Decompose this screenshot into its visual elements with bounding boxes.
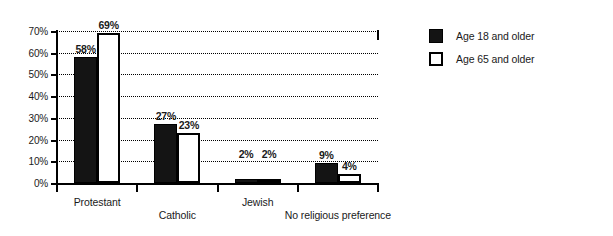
bar bbox=[74, 57, 97, 183]
bar-value-label: 69% bbox=[98, 19, 118, 31]
y-axis-tick bbox=[51, 96, 57, 98]
bar-value-label: 4% bbox=[342, 160, 357, 172]
legend-label: Age 65 and older bbox=[456, 53, 534, 65]
bar bbox=[177, 133, 200, 183]
legend-swatch-filled-icon bbox=[429, 29, 443, 43]
bar bbox=[97, 33, 120, 183]
y-axis-tick-label: 0% bbox=[34, 178, 48, 189]
y-axis-tick-label: 20% bbox=[29, 134, 48, 145]
bar-value-label: 27% bbox=[156, 110, 176, 122]
category-label: Protestant bbox=[74, 196, 121, 208]
y-axis-tick-label: 10% bbox=[29, 156, 48, 167]
legend-item-age-18-and-older: Age 18 and older bbox=[429, 24, 534, 47]
x-axis-tick bbox=[56, 183, 58, 192]
y-axis-tick-label: 70% bbox=[29, 26, 48, 37]
bar bbox=[154, 124, 177, 183]
y-axis-tick-label: 50% bbox=[29, 69, 48, 80]
y-axis-tick-label: 40% bbox=[29, 91, 48, 102]
x-axis-tick bbox=[136, 183, 138, 192]
bar-value-label: 2% bbox=[239, 148, 254, 160]
category-label: No religious preference bbox=[285, 209, 391, 221]
bar-value-label: 58% bbox=[75, 43, 95, 55]
bar-value-label: 23% bbox=[179, 119, 199, 131]
plot-area: 0%10%20%30%40%50%60%70% 58%27%2%9%69%23%… bbox=[57, 31, 378, 183]
chart-legend: Age 18 and older Age 65 and older bbox=[429, 24, 534, 70]
y-axis-tick-label: 60% bbox=[29, 47, 48, 58]
y-axis-tick-label: 30% bbox=[29, 112, 48, 123]
y-axis-tick bbox=[51, 53, 57, 55]
y-axis-tick bbox=[51, 118, 57, 120]
legend-swatch-outlined-icon bbox=[429, 52, 443, 66]
category-label: Catholic bbox=[159, 209, 196, 221]
bar-chart: 0%10%20%30%40%50%60%70% 58%27%2%9%69%23%… bbox=[0, 0, 613, 236]
bar bbox=[258, 179, 281, 183]
y-axis-tick bbox=[51, 74, 57, 76]
legend-item-age-65-and-older: Age 65 and older bbox=[429, 47, 534, 70]
bar-value-label: 9% bbox=[319, 149, 334, 161]
bar bbox=[338, 174, 361, 183]
bar-value-label: 2% bbox=[262, 148, 277, 160]
bar bbox=[235, 179, 258, 183]
y-axis-tick bbox=[51, 31, 57, 33]
category-label: Jewish bbox=[242, 196, 274, 208]
y-axis-tick bbox=[51, 140, 57, 142]
x-axis-tick bbox=[217, 183, 219, 192]
x-axis-tick bbox=[297, 183, 299, 192]
y-axis-tick bbox=[51, 161, 57, 163]
bar bbox=[315, 163, 338, 183]
x-axis-tick bbox=[377, 183, 379, 192]
legend-label: Age 18 and older bbox=[456, 30, 534, 42]
